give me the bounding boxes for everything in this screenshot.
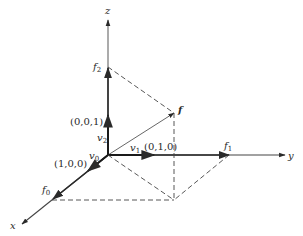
y-axis-label: y — [287, 150, 294, 161]
coord-010-label: (0,1,0) — [144, 141, 177, 152]
vector-diagram: z y x f2 f f1 f0 v2 v1 v0 (0,0,1) (0,1,0… — [0, 0, 303, 236]
z-axis-label: z — [104, 5, 111, 16]
f0-label: f0 — [41, 184, 50, 197]
dashed-origin-to-base — [108, 155, 174, 200]
construction-lines — [52, 67, 229, 200]
v0-label: v0 — [89, 150, 99, 163]
v1-label: v1 — [130, 142, 140, 155]
v2-label: v2 — [97, 132, 107, 145]
coord-001-label: (0,0,1) — [70, 116, 103, 127]
axes — [22, 20, 285, 224]
component-vectors — [53, 68, 229, 199]
dashed-f2-to-f — [108, 67, 174, 113]
f2-label: f2 — [92, 61, 101, 74]
f-label: f — [177, 104, 184, 115]
coord-100-label: (1,0,0) — [54, 158, 87, 169]
x-axis-label: x — [10, 220, 16, 231]
diagram-canvas: z y x f2 f f1 f0 v2 v1 v0 (0,0,1) (0,1,0… — [0, 0, 303, 236]
dashed-f1-to-base — [174, 155, 229, 200]
f1-label: f1 — [223, 140, 232, 153]
